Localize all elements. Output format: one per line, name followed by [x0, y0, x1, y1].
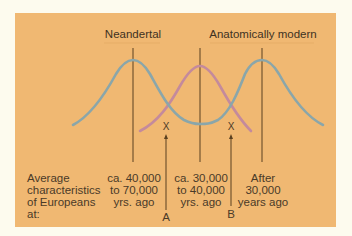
label-a: A: [160, 211, 172, 223]
arrow-a-head: [164, 134, 168, 139]
crossover-marker-b: X: [225, 121, 237, 133]
column-intermediate-period: ca. 30,000 to 40,000 yrs. ago: [170, 172, 232, 208]
neandertal-header: Neandertal: [92, 28, 174, 40]
arrow-b-head: [229, 134, 233, 139]
crossover-marker-a: X: [160, 121, 172, 133]
column-modern-period: After 30,000 years ago: [233, 172, 293, 208]
row-label: Average characteristics of Europeans at:: [27, 172, 101, 220]
label-b: B: [225, 208, 237, 220]
modern-header: Anatomically modern: [206, 28, 320, 40]
column-neandertal-period: ca. 40,000 to 70,000 yrs. ago: [103, 172, 165, 208]
neandertal-curve: [73, 60, 200, 125]
